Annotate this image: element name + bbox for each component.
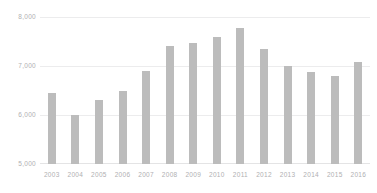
- x-axis-tick-label: 2003: [40, 172, 64, 179]
- x-axis-tick-label: 2006: [111, 172, 135, 179]
- bar[interactable]: [213, 37, 221, 164]
- x-axis: 2003200420052006200720082009201020112012…: [40, 172, 370, 179]
- y-axis: 8,000 7,000 6,000 5,000: [0, 0, 36, 193]
- x-axis-tick-label: 2015: [323, 172, 347, 179]
- y-axis-tick-label: 8,000: [0, 14, 36, 21]
- bar[interactable]: [142, 71, 150, 164]
- bar-slot: [276, 17, 300, 164]
- bar-slot: [134, 17, 158, 164]
- bar-slot: [252, 17, 276, 164]
- x-axis-tick-label: 2013: [276, 172, 300, 179]
- bar-slot: [181, 17, 205, 164]
- y-axis-tick-label: 7,000: [0, 63, 36, 70]
- bar[interactable]: [284, 66, 292, 164]
- bar-slot: [347, 17, 371, 164]
- bar[interactable]: [236, 28, 244, 164]
- bar[interactable]: [307, 72, 315, 164]
- x-axis-tick-label: 2005: [87, 172, 111, 179]
- bar-chart: 8,000 7,000 6,000 5,000 2003200420052006…: [0, 0, 377, 193]
- bar[interactable]: [48, 93, 56, 164]
- bar[interactable]: [354, 62, 362, 164]
- bar-slot: [111, 17, 135, 164]
- bar-slot: [229, 17, 253, 164]
- x-axis-tick-label: 2007: [134, 172, 158, 179]
- bar-slot: [87, 17, 111, 164]
- bar-slot: [323, 17, 347, 164]
- bar-slot: [158, 17, 182, 164]
- x-axis-tick-label: 2009: [181, 172, 205, 179]
- bar-slot: [205, 17, 229, 164]
- x-axis-tick-label: 2008: [158, 172, 182, 179]
- x-axis-tick-label: 2014: [299, 172, 323, 179]
- x-axis-tick-label: 2004: [64, 172, 88, 179]
- y-axis-tick-label: 6,000: [0, 112, 36, 119]
- x-axis-tick-label: 2016: [347, 172, 371, 179]
- plot-area: [40, 17, 370, 164]
- bar[interactable]: [119, 91, 127, 165]
- bar[interactable]: [166, 46, 174, 164]
- x-axis-tick-label: 2010: [205, 172, 229, 179]
- bar[interactable]: [189, 43, 197, 164]
- x-axis-tick-label: 2012: [252, 172, 276, 179]
- bar[interactable]: [331, 76, 339, 164]
- bar[interactable]: [95, 100, 103, 164]
- y-axis-tick-label: 5,000: [0, 161, 36, 168]
- bar-slot: [40, 17, 64, 164]
- bar-slot: [299, 17, 323, 164]
- bar[interactable]: [71, 115, 79, 164]
- bar[interactable]: [260, 49, 268, 164]
- bar-slot: [64, 17, 88, 164]
- x-axis-tick-label: 2011: [229, 172, 253, 179]
- bar-series: [40, 17, 370, 164]
